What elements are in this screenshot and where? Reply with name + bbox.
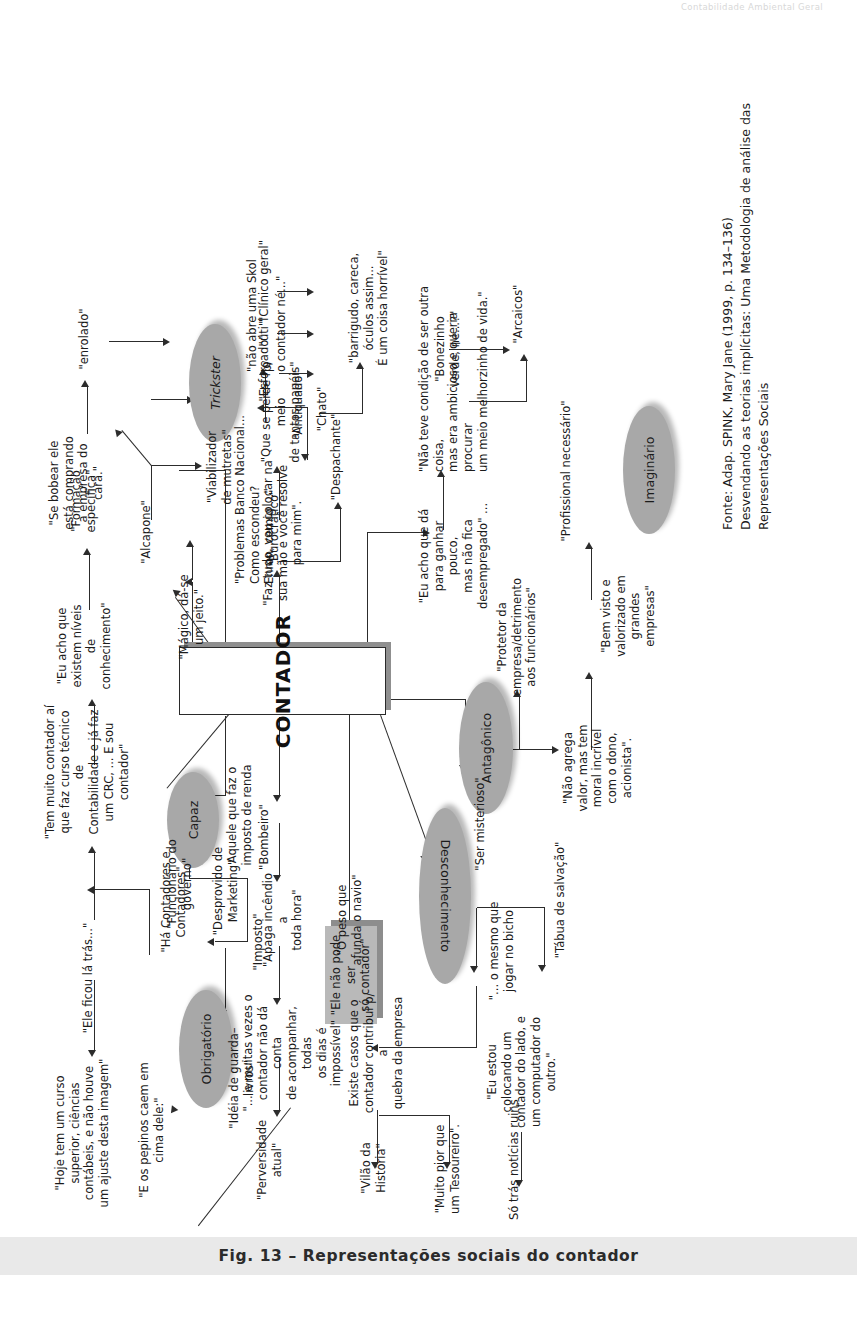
node-ser-misterioso: "Ser misterioso": [473, 774, 488, 874]
node-niveis-de-conhecimento: "Eu acho que existem níveis de conhecime…: [55, 600, 114, 692]
connector: [109, 341, 165, 342]
connector: [367, 532, 368, 650]
node-desprovido-de-marketing: "Desprovido de Marketing": [211, 842, 240, 940]
node-eu-acho-que-da: "Eu acho que dá para ganhar pouco, mas n…: [417, 500, 491, 612]
central-node-contador: CONTADOR: [179, 647, 386, 715]
connector: [519, 696, 520, 750]
node-viabilizador-de-mutretas: "Viabilizador de mutretas": [205, 420, 234, 514]
node-bem-visto-valorizado: "Bem visto e valorizado em grandes empre…: [599, 552, 658, 680]
category-label-desconhecimento: Desconhecimento: [437, 840, 452, 953]
arrow-head: [585, 542, 593, 549]
node-bonezinho-verde: "Bonezinho verde, né...?": [433, 306, 462, 392]
category-ellipse-desconhecimento: Desconhecimento: [419, 808, 471, 984]
figure-caption-bar: Fig. 13 – Representações sociais do cont…: [0, 1237, 857, 1275]
arrow-head: [83, 548, 91, 555]
diagram-rotation-wrapper: CONTADOR Obrigatório Capaz Trickster Des…: [0, 0, 857, 1240]
node-eu-estou-colocando: "Eu estou colocando um contador do lado,…: [485, 1016, 559, 1128]
node-alcapone: "Alcapone": [139, 492, 154, 572]
node-protetor-da-empresa: "Protetor da empresa/detrimento aos func…: [495, 578, 539, 696]
category-ellipse-imaginario: Imaginário: [623, 406, 675, 534]
node-chato: "Chato": [315, 374, 330, 444]
arrow-head: [470, 966, 478, 973]
node-tabua-de-salvacao: "Tábua de salvação": [553, 836, 568, 964]
arrow-head: [538, 965, 546, 972]
arrow-head: [307, 288, 314, 296]
category-ellipse-obrigatorio: Obrigatório: [179, 990, 233, 1108]
connector: [340, 508, 341, 562]
node-enrolado: "enrolado": [77, 304, 92, 374]
node-antiquado: "Antiquado": [291, 362, 306, 448]
connector: [149, 889, 150, 955]
source-credit: Fonte: Adap. SPINK, Mary Jane (1999, p. …: [719, 30, 773, 530]
concept-map-canvas: CONTADOR Obrigatório Capaz Trickster Des…: [29, 20, 829, 1220]
figure-caption: Fig. 13 – Representações sociais do cont…: [218, 1247, 638, 1265]
node-despachante: "Despachante": [329, 410, 344, 504]
central-node-label: CONTADOR: [270, 614, 294, 749]
category-label-imaginario: Imaginário: [641, 437, 656, 504]
node-muito-pior-que-tesoureiro: "Muito pior que um Tesoureiro".: [433, 1120, 462, 1218]
arrow-head: [585, 672, 593, 679]
arrow-head: [88, 846, 96, 853]
arrow-head: [307, 330, 314, 338]
node-funcionario-do-governo: "Funcionário do governo": [165, 834, 194, 934]
node-barrigudo-careca: "barrigudo, careca, óculos assim... É um…: [347, 246, 391, 370]
connector: [121, 430, 152, 466]
node-tem-muito-contador: "Tem muito contador aí que faz curso téc…: [43, 702, 131, 842]
connector: [544, 907, 545, 965]
connector: [247, 878, 248, 942]
connector: [362, 368, 363, 414]
node-apaga-incendio: "Apaga incêndio a toda hora": [261, 872, 305, 968]
arrow-head: [195, 462, 202, 470]
connector: [381, 699, 466, 700]
connector: [87, 386, 88, 434]
connector: [379, 715, 432, 856]
arrow-head: [87, 886, 94, 894]
node-o-peso-que-afunda: "O peso que afunda o navio": [335, 874, 364, 966]
connector: [476, 986, 477, 1048]
node-se-bobear-ele: "Se bobear ele está comprando a empresa …: [47, 434, 106, 532]
category-label-trickster: Trickster: [207, 356, 222, 410]
node-e-os-pepinos: "E os pepinos caem em cima dele:": [137, 1060, 166, 1200]
connector: [151, 399, 189, 400]
arrow-head: [186, 540, 194, 547]
node-e-muitas-vezes: "... e muitas vezes o contador não dá co…: [241, 994, 344, 1112]
arrow-head: [112, 427, 123, 438]
arrow-head: [273, 795, 281, 802]
connector: [367, 532, 425, 533]
node-clinico-geral: "Clínico geral": [257, 234, 272, 328]
arrow-head: [307, 370, 314, 378]
figure-page: Contabilidade Ambiental Geral: [0, 0, 857, 1327]
connector: [526, 360, 527, 402]
arrow-head: [167, 1105, 178, 1115]
connector: [215, 941, 248, 942]
arrow-head: [552, 746, 559, 754]
connector: [95, 889, 150, 890]
node-ele-ficou-la-tras: "Ele ficou lá trás...": [81, 918, 96, 1038]
connector: [307, 408, 308, 460]
node-o-mesmo-que-jogar-no-bicho: "... o mesmo que jogar no bicho: [487, 898, 516, 1004]
node-existe-casos: Existe casos que o contador contribui p/…: [347, 988, 406, 1118]
node-burocratico: "Burocrático": [267, 482, 282, 574]
category-label-antagonico: Antagônico: [478, 713, 493, 784]
arrow-head: [88, 1050, 96, 1057]
connector: [225, 948, 226, 1010]
node-vilao-da-historia: "Vilão da História": [359, 1120, 388, 1216]
connector: [279, 823, 280, 875]
node-hoje-tem-um-curso: "Hoje tem um curso superior, ciências co…: [53, 1058, 112, 1208]
node-nao-agrega-valor: "Não agrega valor, mas tem moral incríve…: [561, 718, 635, 818]
node-magico-da-se-um-jeito: "Mágico, dá-se um jeito.": [177, 574, 206, 660]
connector: [591, 548, 592, 600]
category-label-obrigatorio: Obrigatório: [198, 1014, 213, 1085]
node-bombeiro: "Bombeiro": [257, 800, 272, 874]
arrow-head: [81, 380, 89, 387]
arrow-head: [163, 338, 170, 346]
node-profissional-necessario: "Profissional necessário": [559, 398, 574, 544]
connector: [476, 908, 477, 966]
node-arcaicos: "Arcaicos": [511, 272, 526, 356]
connector: [151, 465, 197, 466]
arrow-head: [503, 346, 510, 354]
node-perversidade-atual: "Perversidade atual": [255, 1114, 284, 1206]
